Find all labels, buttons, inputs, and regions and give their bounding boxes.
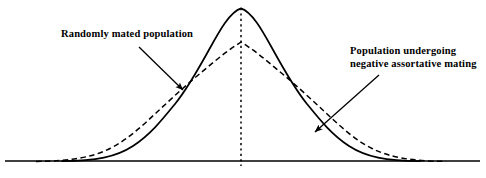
- arrow-negative-assortative: [315, 75, 379, 132]
- arrow-randomly-mated: [139, 47, 183, 90]
- label-negative-assortative-line-2: negative assortative mating: [350, 57, 477, 70]
- label-negative-assortative-mating: Population undergoing negative assortati…: [350, 44, 477, 70]
- label-randomly-mated-line-1: Randomly mated population: [61, 27, 193, 40]
- label-randomly-mated-population: Randomly mated population: [61, 27, 193, 40]
- distribution-figure: Randomly mated population Population und…: [0, 0, 486, 178]
- label-negative-assortative-line-1: Population undergoing: [350, 44, 477, 57]
